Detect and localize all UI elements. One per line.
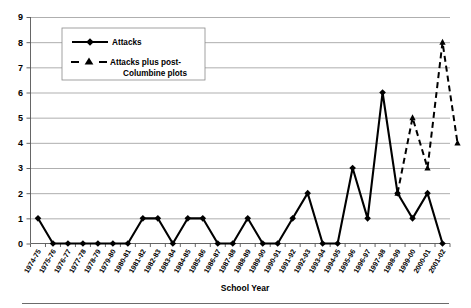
legend-label-attacks: Attacks [112, 38, 142, 47]
y-axis-tick-label: 5 [18, 113, 23, 123]
y-axis-tick-label: 3 [18, 163, 23, 173]
y-axis-tick-label: 2 [18, 189, 23, 199]
chart-legend: Attacks Attacks plus post- Columbine plo… [62, 28, 205, 80]
chart-figure: 0123456789 1974-751975-761976-771977-781… [0, 0, 471, 308]
y-axis-tick-label: 0 [18, 239, 23, 249]
line-chart: 0123456789 1974-751975-761976-771977-781… [0, 0, 471, 308]
legend-label-attacks-plus-plots: Attacks plus post- [110, 58, 181, 67]
y-axis-tick-label: 6 [18, 88, 23, 98]
y-axis-tick-label: 1 [18, 214, 23, 224]
y-axis-tick-label: 9 [18, 12, 23, 22]
y-axis-tick-label: 7 [18, 63, 23, 73]
x-axis-title: School Year [221, 283, 270, 293]
legend-label-attacks-plus-plots-line2: Columbine plots [123, 69, 188, 78]
y-axis-tick-label: 4 [18, 138, 23, 148]
y-axis-tick-label: 8 [18, 38, 23, 48]
